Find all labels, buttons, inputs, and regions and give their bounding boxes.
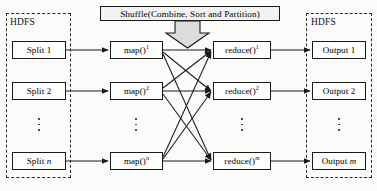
reduce-box-2: reduce()2	[213, 82, 271, 100]
shuffle-label: Shuffle(Combine, Sort and Partition)	[120, 9, 260, 19]
reduce-box-m: reduce()m	[213, 152, 271, 170]
hdfs-label-left: HDFS	[10, 17, 35, 27]
reduce-column-ellipsis	[239, 118, 245, 131]
output-box-1: Output 1	[312, 41, 366, 59]
reduce-box-label: reduce()1	[225, 45, 259, 55]
map-box-label: map()n	[124, 156, 149, 166]
output-box-label: Output m	[322, 156, 357, 166]
output-box-label: Output 1	[323, 45, 356, 55]
mapreduce-diagram: HDFS HDFS Shuffle(Combine, Sort and Part…	[0, 0, 377, 191]
split-box-label: Split n	[27, 156, 51, 166]
split-box-label: Split 1	[27, 45, 51, 55]
reduce-box-1: reduce()1	[213, 41, 271, 59]
arrow-reduce-to-output	[271, 50, 310, 161]
split-box-2: Split 2	[12, 82, 66, 100]
output-box-m: Output m	[312, 152, 366, 170]
map-box-label: map()1	[124, 45, 149, 55]
output-box-label: Output 2	[323, 86, 356, 96]
map-column-ellipsis	[133, 118, 139, 131]
map-box-1: map()1	[110, 41, 163, 59]
output-column-ellipsis	[336, 118, 342, 131]
map-box-n: map()n	[110, 152, 163, 170]
map-box-2: map()2	[110, 82, 163, 100]
shuffle-box: Shuffle(Combine, Sort and Partition)	[100, 6, 280, 21]
split-box-label: Split 2	[27, 86, 51, 96]
hdfs-label-right: HDFS	[311, 17, 336, 27]
shuffle-block-arrow	[166, 21, 209, 48]
reduce-box-label: reduce()2	[225, 86, 259, 96]
arrow-split-to-map	[66, 50, 108, 161]
split-box-n: Split n	[12, 152, 66, 170]
map-box-label: map()2	[124, 86, 149, 96]
reduce-box-label: reduce()m	[224, 156, 259, 166]
output-box-2: Output 2	[312, 82, 366, 100]
split-column-ellipsis	[36, 118, 42, 131]
split-box-1: Split 1	[12, 41, 66, 59]
arrow-map-to-reduce	[163, 50, 211, 161]
